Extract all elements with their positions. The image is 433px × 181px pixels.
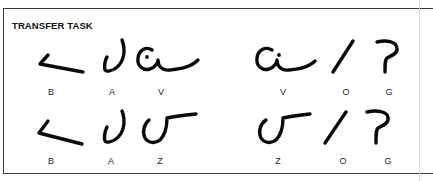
- question-hook-glyph: [367, 111, 388, 143]
- angle-bracket-glyph: [40, 55, 83, 72]
- symbol-label: A: [108, 156, 114, 166]
- hook-glyph: [105, 40, 124, 71]
- c-dot-swash-glyph: [138, 48, 198, 70]
- slash-glyph: [333, 41, 353, 72]
- angle-bracket-glyph: [39, 121, 82, 144]
- symbol-label: G: [385, 87, 392, 97]
- hook-glyph: [105, 111, 124, 142]
- symbol-label: B: [48, 156, 54, 166]
- slash-glyph: [325, 112, 346, 143]
- symbol-label: V: [280, 87, 286, 97]
- c-dot-swash-glyph: [257, 48, 315, 70]
- reverse-s-bar-glyph: [144, 114, 196, 142]
- symbol-label: O: [339, 156, 346, 166]
- symbol-label: O: [342, 87, 349, 97]
- symbol-label: V: [158, 87, 164, 97]
- symbol-label: Z: [157, 156, 163, 166]
- symbol-label: A: [109, 87, 115, 97]
- symbol-label: Z: [275, 156, 281, 166]
- symbol-label: G: [384, 156, 391, 166]
- question-hook-glyph: [377, 41, 397, 72]
- reverse-s-bar-glyph: [260, 114, 310, 142]
- symbol-label: B: [48, 87, 54, 97]
